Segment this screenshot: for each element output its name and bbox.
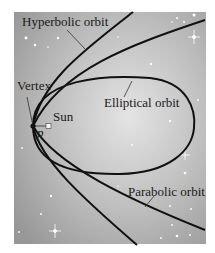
sun-label: Sun	[53, 109, 74, 124]
elliptical-label: Elliptical orbit	[104, 95, 180, 110]
parabolic-label: Parabolic orbit	[128, 184, 205, 199]
hyperbolic-label: Hyperbolic orbit	[22, 14, 109, 29]
vertex-label: Vertex	[17, 78, 51, 93]
orbits-diagram: Hyperbolic orbit Elliptical orbit Parabo…	[0, 0, 215, 253]
sun-icon	[46, 124, 51, 129]
vertex-point	[30, 123, 35, 128]
p-label: p	[36, 125, 44, 140]
